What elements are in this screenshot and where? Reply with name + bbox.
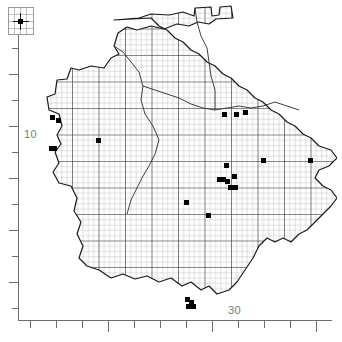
x-tick bbox=[264, 321, 265, 328]
record-marker bbox=[96, 138, 101, 143]
y-tick bbox=[12, 308, 19, 309]
x-tick bbox=[160, 321, 161, 328]
record-marker bbox=[234, 112, 239, 117]
x-tick bbox=[238, 321, 239, 328]
y-tick bbox=[9, 74, 19, 75]
x-tick bbox=[186, 321, 187, 328]
x-tick bbox=[316, 321, 317, 332]
record-marker bbox=[224, 163, 229, 168]
y-tick bbox=[12, 152, 19, 153]
map-outline-and-grid bbox=[19, 2, 337, 319]
x-tick bbox=[30, 321, 31, 328]
record-marker bbox=[308, 158, 313, 163]
record-marker bbox=[191, 304, 196, 309]
x-tick bbox=[108, 321, 109, 332]
y-tick bbox=[9, 178, 19, 179]
record-marker bbox=[225, 179, 230, 184]
x-tick bbox=[82, 321, 83, 328]
x-tick bbox=[134, 321, 135, 328]
y-tick bbox=[12, 204, 19, 205]
y-tick bbox=[12, 100, 19, 101]
record-marker bbox=[50, 115, 55, 120]
record-marker bbox=[243, 110, 248, 115]
record-marker bbox=[261, 158, 266, 163]
record-marker bbox=[184, 200, 189, 205]
record-marker bbox=[206, 213, 211, 218]
record-marker bbox=[52, 146, 57, 151]
y-tick bbox=[12, 48, 19, 49]
y-tick bbox=[12, 256, 19, 257]
x-tick bbox=[56, 321, 57, 328]
record-marker bbox=[232, 174, 237, 179]
x-tick bbox=[212, 321, 213, 332]
map-plot-area bbox=[19, 2, 337, 319]
record-marker bbox=[222, 112, 227, 117]
record-marker bbox=[233, 185, 238, 190]
y-tick bbox=[9, 230, 19, 231]
y-tick bbox=[9, 126, 19, 127]
y-tick bbox=[9, 282, 19, 283]
x-axis-line bbox=[18, 320, 332, 321]
x-tick bbox=[290, 321, 291, 328]
map-grid-fill bbox=[19, 2, 337, 319]
record-marker bbox=[56, 118, 61, 123]
distribution-map-figure: 10 30 bbox=[0, 0, 342, 342]
